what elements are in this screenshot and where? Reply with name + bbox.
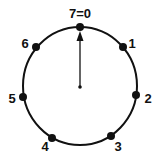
point-dot-5 [19, 93, 27, 101]
point-dot-0 [76, 23, 84, 31]
point-dot-2 [132, 91, 140, 99]
point-dot-1 [119, 43, 127, 51]
mod-7-clock-diagram: 7=0123456 [0, 0, 163, 158]
point-label-0: 7=0 [69, 6, 91, 21]
point-dot-6 [32, 43, 40, 51]
center-dot [78, 85, 82, 89]
point-label-2: 2 [144, 91, 151, 106]
point-dot-4 [48, 134, 56, 142]
point-label-1: 1 [128, 36, 135, 51]
point-label-6: 6 [21, 36, 28, 51]
point-label-3: 3 [114, 139, 121, 154]
arrow-head-icon [77, 31, 84, 41]
point-label-5: 5 [8, 91, 15, 106]
point-label-4: 4 [41, 139, 49, 154]
